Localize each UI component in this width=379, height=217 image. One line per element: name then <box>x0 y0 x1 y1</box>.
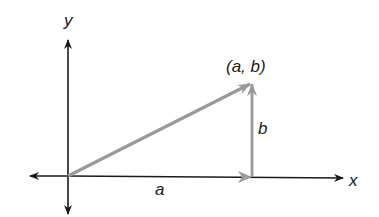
y-axis-label: y <box>64 12 73 29</box>
component-b-label: b <box>258 120 267 137</box>
x-axis-label: x <box>349 172 358 189</box>
component-a-label: a <box>155 181 164 198</box>
point-label: (a, b) <box>226 58 266 75</box>
x-axis <box>30 176 343 178</box>
resultant-vector <box>68 84 250 176</box>
vector-diagram <box>0 0 379 217</box>
